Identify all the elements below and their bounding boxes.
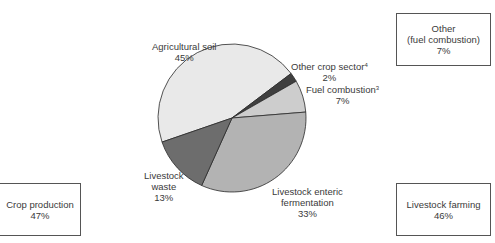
label-other-crop-name: Other crop sector4 [291, 61, 368, 72]
group-livestock-line1: Livestock farming [407, 199, 481, 210]
group-box-other: Other (fuel combustion) 7% [396, 13, 491, 66]
label-other-crop-sector: Other crop sector4 2% [291, 61, 368, 83]
label-fuel-combustion: Fuel combustion3 7% [306, 84, 379, 106]
label-waste-pct: 13% [144, 192, 184, 203]
group-other-line1: Other [432, 23, 456, 34]
label-other-crop-pct: 2% [291, 72, 368, 83]
group-crop-pct: 47% [30, 210, 49, 221]
group-other-line2: (fuel combustion) [407, 34, 480, 45]
group-livestock-pct: 46% [434, 210, 453, 221]
group-box-livestock-farming: Livestock farming 46% [396, 183, 491, 236]
label-livestock-enteric: Livestock enteric fermentation 33% [272, 186, 343, 219]
label-agricultural-soil-name: Agricultural soil [152, 41, 216, 52]
label-waste-line2: waste [144, 181, 184, 192]
group-other-pct: 7% [437, 45, 451, 56]
label-agricultural-soil: Agricultural soil 45% [152, 41, 216, 63]
label-other-crop-text: Other crop sector [291, 61, 364, 72]
label-livestock-waste: Livestock waste 13% [144, 170, 184, 203]
group-crop-line1: Crop production [6, 199, 74, 210]
label-agricultural-soil-pct: 45% [152, 52, 216, 63]
label-fuel-pct: 7% [306, 95, 379, 106]
label-fuel-text: Fuel combustion [306, 84, 376, 95]
footnote-3: 3 [376, 85, 379, 91]
label-enteric-line1: Livestock enteric [272, 186, 343, 197]
footnote-4: 4 [364, 62, 367, 68]
label-enteric-line2: fermentation [272, 197, 343, 208]
label-waste-line1: Livestock [144, 170, 184, 181]
label-fuel-name: Fuel combustion3 [306, 84, 379, 95]
label-enteric-pct: 33% [272, 208, 343, 219]
group-box-crop-production: Crop production 47% [0, 183, 81, 236]
